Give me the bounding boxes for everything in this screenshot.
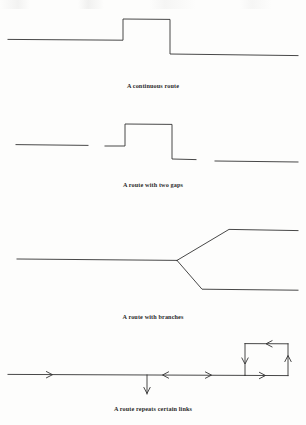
lower-branch-line: [177, 260, 298, 290]
figure-route-two-gaps: [0, 112, 306, 174]
upper-branch-line: [177, 229, 298, 260]
trunk-line: [17, 259, 177, 260]
route-polyline: [8, 19, 298, 56]
figure-4-caption: A route repeats certain links: [0, 405, 306, 412]
route-repeats-links-drawing: [0, 336, 306, 398]
figure-continuous-route: [0, 8, 306, 70]
route-segment-left: [16, 145, 88, 146]
figure-route-repeats-links: [0, 336, 306, 398]
main-line: [8, 374, 245, 375]
route-segment-right: [215, 161, 298, 162]
figure-1-caption: A continuous route: [0, 82, 306, 89]
figure-2-caption: A route with two gaps: [0, 181, 306, 188]
route-two-gaps-drawing: [0, 112, 306, 174]
figure-3-caption: A route with branches: [0, 313, 306, 320]
route-segment-middle: [105, 124, 196, 160]
document-page: A continuous route A route with two gaps: [0, 0, 306, 425]
figure-route-branches: [0, 208, 306, 300]
continuous-route-drawing: [0, 8, 306, 70]
route-branches-drawing: [0, 208, 306, 300]
